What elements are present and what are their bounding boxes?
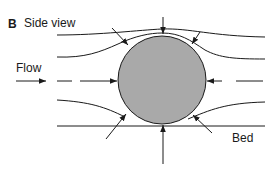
grain-circle xyxy=(118,36,206,124)
streamline-lower xyxy=(57,100,125,117)
diagram-canvas xyxy=(0,0,275,170)
bottom-right-arrow xyxy=(193,115,212,133)
top-left-arrow xyxy=(112,28,128,45)
streamline-lower-right xyxy=(188,102,265,119)
top-right-arrow xyxy=(192,32,200,44)
